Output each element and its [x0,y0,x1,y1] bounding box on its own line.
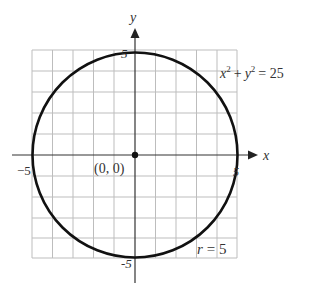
y-axis-label: y [128,10,137,25]
origin-point [132,152,138,158]
origin-label: (0, 0) [94,161,125,177]
tick-label-top: 5 [121,46,128,61]
x-axis-arrow-icon [248,151,258,160]
radius-label: r= 5 [197,241,227,257]
y-axis-arrow-icon [131,28,140,38]
equation-label: x2+y2= 25 [219,64,284,81]
circle-diagram: y x 5 -5 −5 5 (0, 0) x2+y2= 25 r= 5 [0,0,311,294]
tick-label-bottom: -5 [121,256,132,271]
tick-label-left: −5 [17,163,31,178]
svg-text:x2+y2= 25: x2+y2= 25 [219,64,284,81]
tick-label-right: 5 [233,165,239,179]
svg-text:r= 5: r= 5 [197,241,227,257]
x-axis-label: x [262,148,270,163]
